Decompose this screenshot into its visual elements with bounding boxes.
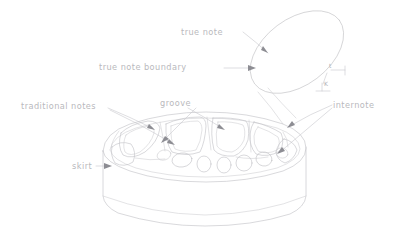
label-k-symbol: K (324, 81, 328, 87)
leader-groove (161, 108, 225, 143)
label-groove: groove (160, 99, 191, 107)
leader-skirt (96, 163, 112, 169)
skirt-cylinder (103, 147, 306, 226)
figure-canvas: true note true note boundary traditional… (0, 0, 406, 232)
leader-true-note-boundary (224, 65, 256, 71)
label-internote: internote (333, 101, 374, 109)
traditional-note-cells (111, 117, 297, 165)
disc-rim (103, 112, 306, 182)
label-traditional-notes: traditional notes (21, 102, 96, 110)
label-true-note-boundary: true note boundary (99, 63, 187, 71)
label-skirt: skirt (72, 162, 92, 170)
label-true-note: true note (181, 28, 223, 36)
leader-internote (277, 105, 332, 154)
label-t-symbol: t (329, 63, 332, 69)
